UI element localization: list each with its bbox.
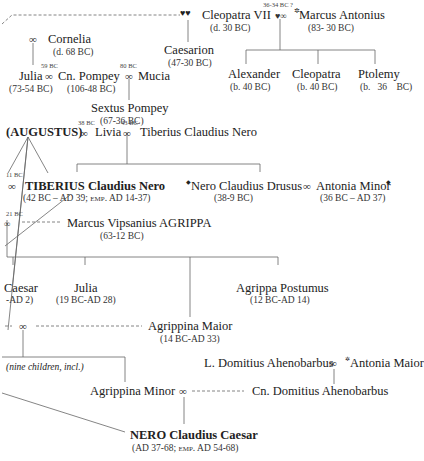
marriage-symbol-augustus-livia: ∞ [80,127,88,139]
marriage-date-augustus-livia: 38 BC [78,119,95,126]
marriage-symbol-tiberius-julia: ∞ [8,180,16,192]
marriage-date-julia-pompey: 59 BC [41,62,58,69]
dates-cleopatra-vii: (d. 30 BC) [210,23,250,34]
person-augustus: (AUGUSTUS) [6,125,82,139]
cleopatra-hearts-icon: ♥♥ [180,8,191,18]
person-l-domitius: L. Domitius Ahenobarbus [204,356,334,370]
person-livia: Livia [95,125,121,139]
person-agrippa-postumus: Agrippa Postumus [236,281,329,295]
person-alexander: Alexander [228,67,280,81]
marriage-symbol-agrippina-cn-domitius: ∞ [179,385,187,397]
diamond-icon-drusus: ◆ [186,178,191,185]
person-cn-pompey: Cn. Pompey [58,69,120,83]
dates-julia-minor: (19 BC-AD 28) [56,295,116,306]
dates-marcus-antonius: (83- 30 BC) [308,23,354,34]
marriage-date-tiberius-julia: 11 BC [6,171,23,178]
dates-agrippa-postumus: (12 BC-AD 14) [250,295,310,306]
heart-marriage-icon: ♥∞ [275,10,287,22]
marriage-symbol-livia-tiberius-sr: ∞ [123,127,131,139]
person-nero: NERO Claudius Caesar [130,428,258,442]
person-tiberius: TIBERIUS Claudius Nero [25,179,165,193]
person-drusus: Nero Claudius Drusus [191,179,302,193]
person-mucia: Mucia [138,69,170,83]
person-marcus-antonius: Marcus Antonius [299,8,385,22]
person-antonia-maior: Antonia Maior [350,356,424,370]
person-ptolemy: Ptolemy [358,67,400,81]
marriage-symbol-julia-pompey: ∞ [45,70,53,82]
dates-caesarion: (47-30 BC) [168,58,212,69]
dates-drusus: (38-9 BC) [214,193,253,204]
dates-cn-pompey: (106-48 BC) [67,84,115,95]
marriage-date-livia-tiberius-sr: 43 BC [121,119,138,126]
dates-tiberius: (42 BC – AD 39; emp. AD 14-37) [23,193,150,204]
person-antonia-minor: Antonia Minor [316,179,391,193]
person-cleopatra-vii: Cleopatra VII [202,8,271,22]
person-tiberius-claudius-nero-sr: Tiberius Claudius Nero [140,125,257,139]
marriage-symbol-drusus-antonia: ∞ [303,180,311,192]
marriage-symbol-cornelia: ∞ [29,33,37,45]
marriage-date-pompey-mucia: 80 BC [120,62,137,69]
marriage-symbol-agrippina-maior: ∞ [19,320,27,332]
dates-agrippina-maior: (14 BC-AD 33) [160,334,220,345]
marriage-date-antony-cleopatra: 36-34 BC ? [263,1,293,8]
person-agrippina-minor: Agrippina Minor [90,384,175,398]
dates-nero: (AD 37-68; emp. AD 54-68) [132,443,238,454]
marriage-symbol-domitius-antonia: ∞ [329,357,337,369]
dates-cornelia: (d. 68 BC) [53,47,93,58]
dates-cleopatra-selene: (b. 40 BC) [297,82,337,93]
marriage-date-agrippa-julia: 21 BC [6,210,23,217]
person-sextus-pompey: Sextus Pompey [91,101,168,115]
person-caesarion: Caesarion [164,43,214,57]
person-cleopatra-selene: Cleopatra [292,67,341,81]
diamond-icon-antonia: ◆ [386,178,391,185]
marriage-symbol-pompey-mucia: ∞ [125,70,133,82]
person-cornelia: Cornelia [48,32,91,46]
person-agrippa: Marcus Vipsanius AGRIPPA [67,216,211,230]
person-gaius-caesar: Caesar [4,281,38,295]
person-agrippina-maior: Agrippina Maior [148,319,232,333]
dates-ptolemy: (b. 36 BC) [360,82,412,93]
dates-julia-pompey: (73-54 BC) [9,84,53,95]
person-julia-minor: Julia [74,281,98,295]
dates-agrippa: (63-12 BC) [100,231,144,242]
dates-gaius-caesar: -AD 2) [6,295,33,306]
person-cn-domitius: Cn. Domitius Ahenobarbus [252,384,388,398]
dates-antonia-minor: (36 BC – AD 37) [320,193,385,204]
marriage-symbol-agrippa-julia: ∞ [4,218,10,230]
note-nine-children: (nine children, incl.) [6,362,84,372]
person-julia-pompey: Julia [19,69,43,83]
dates-alexander: (b. 40 BC) [230,82,270,93]
